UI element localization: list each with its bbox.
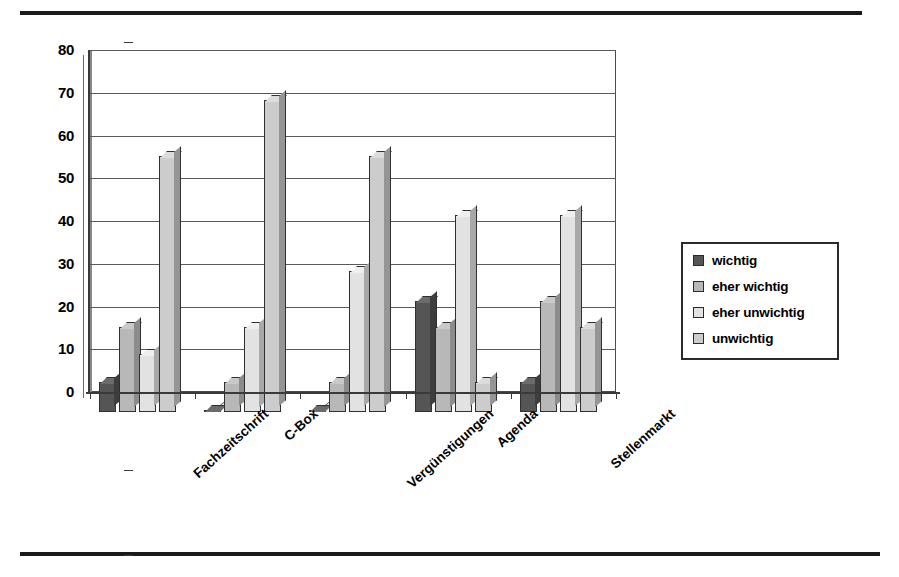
bar-side-face <box>174 146 181 406</box>
legend-item: wichtig <box>693 253 837 268</box>
bar <box>540 301 557 412</box>
x-axis-tick-mark <box>406 392 407 399</box>
y-axis-tick-mark <box>124 555 133 556</box>
bar <box>415 301 432 412</box>
bar <box>99 382 116 412</box>
bar <box>159 156 176 413</box>
bar <box>224 382 241 412</box>
legend-swatch-icon <box>693 255 704 266</box>
legend-swatch-icon <box>693 281 704 292</box>
x-axis-tick-mark <box>511 392 512 399</box>
legend-item-label: eher wichtig <box>712 279 788 294</box>
x-axis-line <box>86 392 620 394</box>
bar <box>455 215 472 412</box>
bar-chart-figure: 01020304050607080 FachzeitschriftC-BoxVe… <box>0 20 899 540</box>
gridline <box>90 93 616 94</box>
x-axis-tick-mark <box>195 392 196 399</box>
legend-item: unwichtig <box>693 331 837 346</box>
bar <box>369 156 386 413</box>
bottom-horizontal-rule <box>20 552 880 556</box>
bar <box>435 327 452 413</box>
y-axis-tick-mark <box>124 470 133 471</box>
top-horizontal-rule <box>20 11 862 15</box>
bar <box>244 327 261 413</box>
legend-item-label: eher unwichtig <box>712 305 804 320</box>
y-axis-line-shadow <box>83 55 84 398</box>
y-axis-tick-label: 40 <box>58 213 74 228</box>
legend-item: eher unwichtig <box>693 305 837 320</box>
y-axis-tick-label: 80 <box>58 42 74 57</box>
bar <box>349 271 366 412</box>
x-axis-tick-mark <box>90 392 91 399</box>
bar-side-face <box>384 146 391 406</box>
plot-area <box>90 50 616 412</box>
legend-swatch-icon <box>693 333 704 344</box>
bar <box>204 410 221 412</box>
legend-item-label: wichtig <box>712 253 757 268</box>
y-axis-tick-label: 20 <box>58 299 74 314</box>
x-axis-category-label: Fachzeitschrift <box>190 406 271 481</box>
legend-swatch-icon <box>693 307 704 318</box>
chart-legend: wichtig eher wichtig eher unwichtig unwi… <box>681 242 839 360</box>
bar-side-face <box>279 90 286 406</box>
bar <box>264 100 281 412</box>
bar <box>560 215 577 412</box>
bar <box>329 382 346 412</box>
x-axis-category-label: Vergünstigungen <box>404 406 496 491</box>
gridline <box>90 136 616 137</box>
bar <box>139 354 156 412</box>
y-axis-tick-label: 60 <box>58 128 74 143</box>
x-axis-tick-mark <box>300 392 301 399</box>
y-axis-tick-mark <box>124 42 133 43</box>
legend-item: eher wichtig <box>693 279 837 294</box>
y-axis-tick-label: 70 <box>58 85 74 100</box>
bar <box>580 327 597 413</box>
y-axis-tick-label: 0 <box>66 384 74 399</box>
bar-side-face <box>470 205 477 406</box>
y-axis-tick-label: 10 <box>58 341 74 356</box>
legend-item-label: unwichtig <box>712 331 773 346</box>
x-axis-category-label: Stellenmarkt <box>607 406 677 471</box>
bar-side-face <box>490 372 497 406</box>
bar <box>119 327 136 413</box>
y-axis-tick-label: 30 <box>58 256 74 271</box>
x-axis-tick-mark <box>616 392 617 399</box>
y-axis-labels: 01020304050607080 <box>0 50 74 393</box>
y-axis-tick-label: 50 <box>58 170 74 185</box>
gridline <box>90 50 616 51</box>
x-axis-category-label: Agenda <box>494 406 541 450</box>
